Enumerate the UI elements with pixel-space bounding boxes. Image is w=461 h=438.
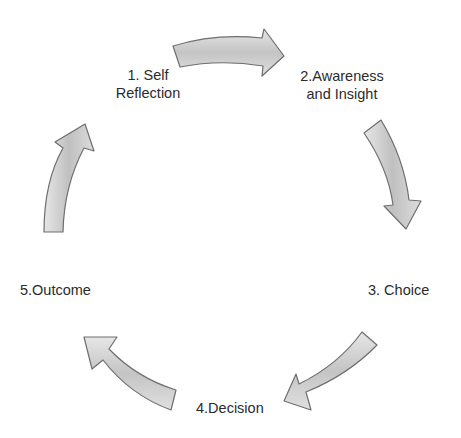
arrow-2-to-3	[364, 120, 421, 229]
step-3-line-1: 3. Choice	[368, 281, 458, 299]
cycle-diagram	[0, 0, 461, 438]
arrow-5-to-1	[44, 124, 94, 232]
step-2-line-1: 2.Awareness	[292, 67, 392, 85]
arrow-4-to-5	[84, 337, 176, 410]
step-1-line-1: 1. Self	[98, 66, 198, 84]
step-4-label: 4.Decision	[196, 399, 296, 417]
step-5-label: 5.Outcome	[20, 281, 120, 299]
step-5-line-1: 5.Outcome	[20, 281, 120, 299]
step-4-line-1: 4.Decision	[196, 399, 296, 417]
step-3-label: 3. Choice	[368, 281, 458, 299]
arrow-3-to-4	[284, 332, 377, 410]
step-2-label: 2.Awareness and Insight	[292, 67, 392, 103]
step-1-label: 1. Self Reflection	[98, 66, 198, 102]
step-2-line-2: and Insight	[292, 85, 392, 103]
step-1-line-2: Reflection	[98, 84, 198, 102]
